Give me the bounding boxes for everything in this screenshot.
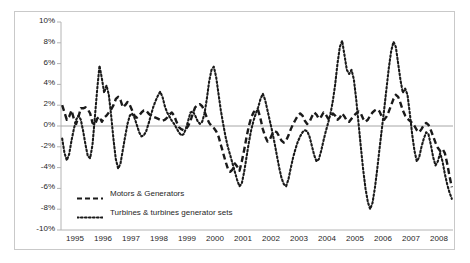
- y-tick-label: 0%: [17, 120, 55, 129]
- chart-outer-frame: 10%8%6%4%2%0%-2%-4%-6%-8%-10% 1995199619…: [14, 11, 455, 250]
- y-tick-label: 4%: [17, 78, 55, 87]
- y-tick-label: -4%: [17, 162, 55, 171]
- y-tick-label: -2%: [17, 141, 55, 150]
- legend-item-motors-generators: Motors & Generators: [77, 184, 307, 203]
- y-tick-label: -8%: [17, 203, 55, 212]
- legend-item-turbines: Turbines & turbines generator sets: [77, 203, 307, 222]
- y-tick-label: -10%: [17, 224, 55, 233]
- x-tick-label: 2008: [423, 234, 455, 243]
- legend-swatch-dotted: [77, 208, 103, 217]
- y-tick-label: 6%: [17, 58, 55, 67]
- y-tick-label: 2%: [17, 99, 55, 108]
- y-tick-label: -6%: [17, 182, 55, 191]
- y-tick-label: 10%: [17, 16, 55, 25]
- chart-figure: 10%8%6%4%2%0%-2%-4%-6%-8%-10% 1995199619…: [0, 0, 470, 263]
- chart-legend: Motors & Generators Turbines & turbines …: [77, 184, 307, 222]
- legend-label-motors-generators: Motors & Generators: [110, 189, 184, 198]
- legend-swatch-dashed: [77, 189, 103, 198]
- y-tick-label: 8%: [17, 37, 55, 46]
- legend-label-turbines: Turbines & turbines generator sets: [110, 208, 232, 217]
